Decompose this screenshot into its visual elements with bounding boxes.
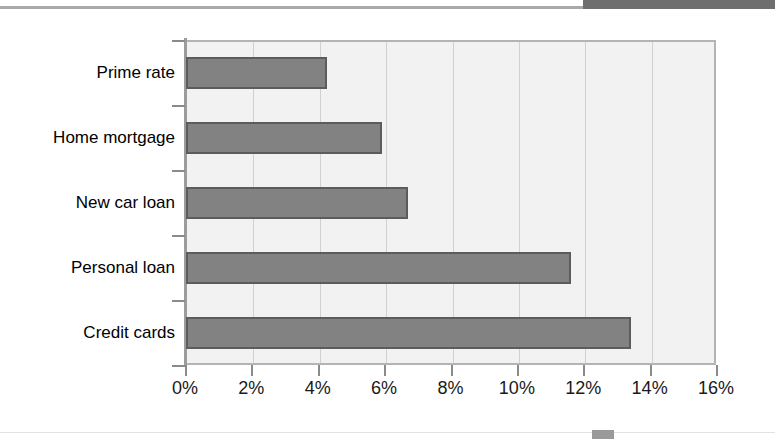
gridline: [585, 42, 586, 363]
x-axis-tick: [650, 365, 652, 376]
bar: [186, 122, 382, 154]
x-axis-tick: [318, 365, 320, 376]
x-axis-tick-label: 4%: [286, 378, 350, 399]
y-axis-category-labels: Prime rateHome mortgageNew car loanPerso…: [0, 18, 175, 418]
x-axis-tick: [517, 365, 519, 376]
category-label: Personal loan: [0, 258, 175, 278]
x-axis-tick-label: 8%: [419, 378, 483, 399]
category-label: New car loan: [0, 193, 175, 213]
gridline: [652, 42, 653, 363]
x-axis-tick-label: 10%: [485, 378, 549, 399]
x-axis-tick-label: 2%: [219, 378, 283, 399]
x-axis-tick-label: 16%: [684, 378, 748, 399]
x-axis-tick: [451, 365, 453, 376]
bar: [186, 252, 571, 284]
x-axis-tick-labels: 0%2%4%6%8%10%12%14%16%: [0, 378, 775, 408]
x-axis-tick-label: 6%: [352, 378, 416, 399]
page-bottom-mark: [592, 430, 614, 439]
x-axis-tick-label: 12%: [551, 378, 615, 399]
x-axis-tick: [185, 365, 187, 376]
bar: [186, 57, 327, 89]
gridline: [519, 42, 520, 363]
gridline: [453, 42, 454, 363]
category-label: Home mortgage: [0, 128, 175, 148]
bar-chart: Prime rateHome mortgageNew car loanPerso…: [0, 18, 775, 418]
bar: [186, 317, 631, 349]
page-top-rule: [0, 6, 775, 9]
x-axis-tick: [583, 365, 585, 376]
x-axis-tick: [384, 365, 386, 376]
category-label: Credit cards: [0, 323, 175, 343]
page-bottom-rule: [0, 432, 775, 433]
x-axis-tick: [716, 365, 718, 376]
x-axis-tick-label: 0%: [153, 378, 217, 399]
bar: [186, 187, 408, 219]
x-axis-tick: [251, 365, 253, 376]
x-axis-tick-label: 14%: [618, 378, 682, 399]
category-label: Prime rate: [0, 63, 175, 83]
